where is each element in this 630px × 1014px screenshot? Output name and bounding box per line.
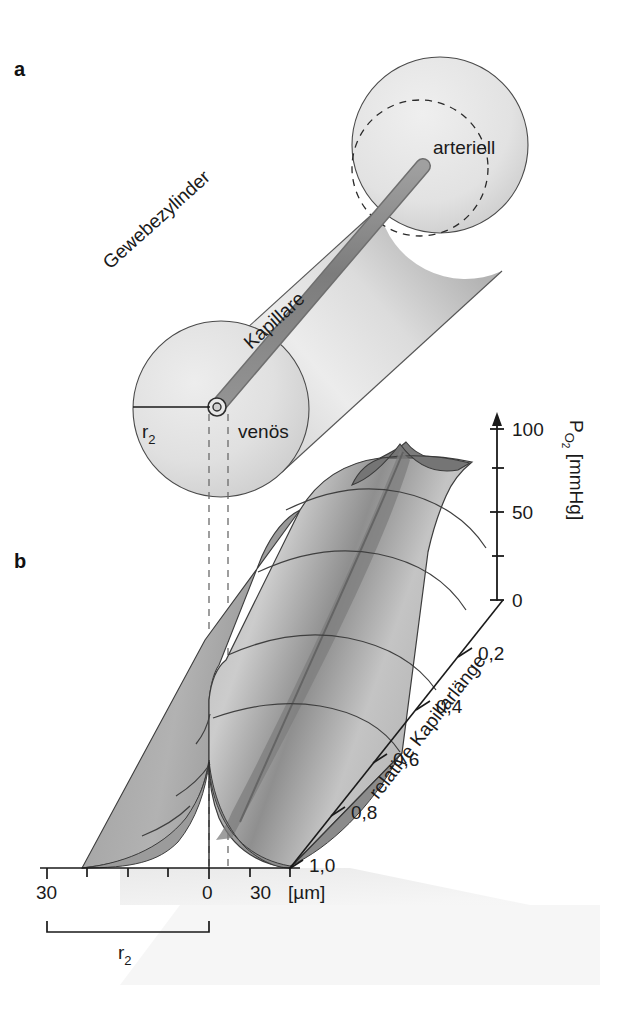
plot-ground-shadow-far [120,905,600,985]
po2-tick-label-0: 0 [512,590,523,611]
panel-a-label: a [14,58,26,80]
venous-end-label: venös [238,421,289,442]
x-axis-unit-label: [µm] [288,882,325,903]
panel-b-label: b [14,550,26,572]
arterial-end-label: arteriell [433,137,495,158]
x-tick-label-0: 0 [202,882,213,903]
capillary-venous-opening-inner [213,403,221,411]
depth-tick-label-1-0: 1,0 [309,855,335,876]
figure-root: a r2 Gewebezylinder Kapilla [0,0,630,1014]
po2-tick-label-100: 100 [512,419,544,440]
depth-tick-label-0-8: 0,8 [351,802,377,823]
x-tick-label-right-30: 30 [250,882,271,903]
x-tick-label-left-30: 30 [36,882,57,903]
po2-tick-label-50: 50 [512,502,533,523]
